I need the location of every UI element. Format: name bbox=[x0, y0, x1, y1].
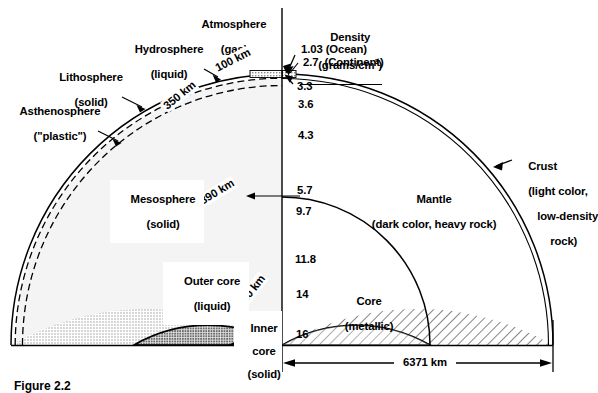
density-value-3-6: 3.6 bbox=[298, 98, 313, 111]
asthenosphere-label: Asthenosphere ("plastic") bbox=[2, 92, 106, 155]
density-value-4-3: 4.3 bbox=[298, 129, 313, 142]
crust-sublabel-line1: (light color, bbox=[528, 185, 588, 197]
radius-arrow-left bbox=[283, 359, 295, 367]
density-value-16: 16 bbox=[296, 328, 308, 341]
crust-band-left bbox=[250, 71, 282, 78]
density-value-5-7: 5.7 bbox=[297, 184, 312, 197]
mesosphere-sublabel-text: (solid) bbox=[146, 218, 179, 230]
crust-label: Crust (light color, low-density rock) bbox=[516, 148, 586, 260]
figure-caption: Figure 2.2 bbox=[14, 379, 71, 393]
inner-core-label: Inner core (solid) bbox=[234, 311, 282, 392]
density-title-text: Density bbox=[330, 31, 370, 43]
outer-core-label-text: Outer core bbox=[184, 275, 240, 287]
density-value-11-8: 11.8 bbox=[295, 253, 316, 266]
mesosphere-label: Mesosphere (solid) bbox=[110, 180, 204, 243]
mantle-label: Mantle (dark color, heavy rock) bbox=[348, 180, 508, 243]
core-label-text: Core bbox=[356, 295, 381, 307]
crust-sublabel-line3: rock) bbox=[528, 235, 577, 247]
inner-core-label-line3: (solid) bbox=[247, 368, 280, 380]
core-sublabel-text: (metallic) bbox=[345, 320, 394, 332]
core-label: Core (metallic) bbox=[320, 282, 406, 345]
outer-core-sublabel-text: (liquid) bbox=[194, 300, 231, 312]
crust-sublabel-line2: low-density bbox=[528, 210, 598, 222]
hydrosphere-sublabel-text: (liquid) bbox=[151, 68, 188, 80]
asthenosphere-label-text: Asthenosphere bbox=[19, 105, 100, 117]
atmosphere-label-text: Atmosphere bbox=[201, 18, 266, 30]
density-value-9-7: 9.7 bbox=[296, 205, 311, 218]
hydrosphere-label-text: Hydrosphere bbox=[135, 43, 204, 55]
density-value-ocean: 1.03 (Ocean) bbox=[301, 43, 367, 56]
density-value-14: 14 bbox=[296, 288, 308, 301]
inner-core-label-line1: Inner bbox=[251, 322, 278, 334]
lithosphere-label-text: Lithosphere bbox=[59, 71, 123, 83]
density-value-3-3: 3.3 bbox=[297, 80, 312, 93]
crust-arrowhead bbox=[493, 162, 503, 171]
asthenosphere-sublabel-text: ("plastic") bbox=[34, 130, 87, 142]
radius-dimension-label: 6371 km bbox=[395, 356, 455, 369]
inner-core-label-line2: core bbox=[252, 345, 275, 357]
mantle-label-text: Mantle bbox=[416, 193, 451, 205]
radius-arrow-right bbox=[540, 359, 552, 367]
mesosphere-label-text: Mesosphere bbox=[131, 193, 196, 205]
crust-label-text: Crust bbox=[528, 160, 557, 172]
density-value-continent: 2.7 (Continent) bbox=[303, 56, 384, 69]
mantle-sublabel-text: (dark color, heavy rock) bbox=[372, 218, 496, 230]
